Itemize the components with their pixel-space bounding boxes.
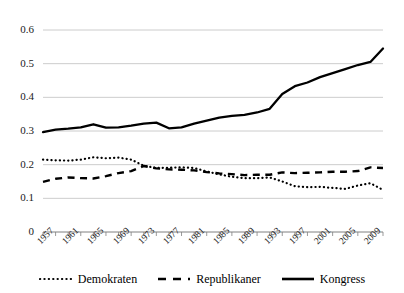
y-axis-tick-label: 0.1 [8,192,34,203]
chart-plot-area [0,0,404,293]
legend-swatch-dashed-icon [157,274,191,284]
y-axis-tick-label: 0.2 [8,159,34,170]
y-axis-tick-label: 0.3 [8,125,34,136]
series-line-demokraten [43,157,383,190]
legend-swatch-dotted-icon [39,274,73,284]
legend-swatch-solid-icon [281,274,315,284]
legend-label-republikaner: Republikaner [196,273,261,285]
legend-item-kongress: Kongress [281,273,365,285]
series-lines [43,49,383,190]
gridlines [43,30,383,232]
legend-label-kongress: Kongress [320,273,365,285]
legend-item-demokraten: Demokraten [39,273,137,285]
legend-label-demokraten: Demokraten [78,273,137,285]
y-axis-tick-label: 0.5 [8,58,34,69]
line-chart: 00.10.20.30.40.50.6 19571961196519691973… [0,0,404,293]
legend-item-republikaner: Republikaner [157,273,261,285]
y-axis-tick-label: 0 [8,226,34,237]
series-line-republikaner [43,166,383,182]
y-axis-tick-label: 0.6 [8,24,34,35]
y-axis-tick-label: 0.4 [8,91,34,102]
series-line-kongress [43,49,383,132]
chart-legend: Demokraten Republikaner Kongress [0,268,404,290]
